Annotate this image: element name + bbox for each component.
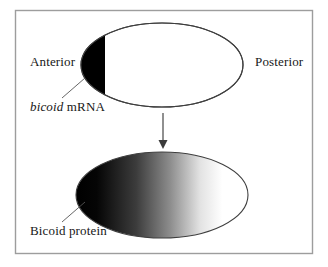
label-posterior: Posterior (255, 55, 303, 69)
label-bicoid-mrna: bicoid mRNA (30, 100, 105, 114)
label-bicoid-gene-name: bicoid (30, 99, 63, 114)
label-anterior: Anterior (30, 55, 75, 69)
figure-container: Anterior Posterior bicoid mRNA Bicoid pr… (0, 0, 328, 267)
label-bicoid-protein: Bicoid protein (30, 224, 107, 238)
label-mrna-suffix: mRNA (63, 99, 105, 114)
